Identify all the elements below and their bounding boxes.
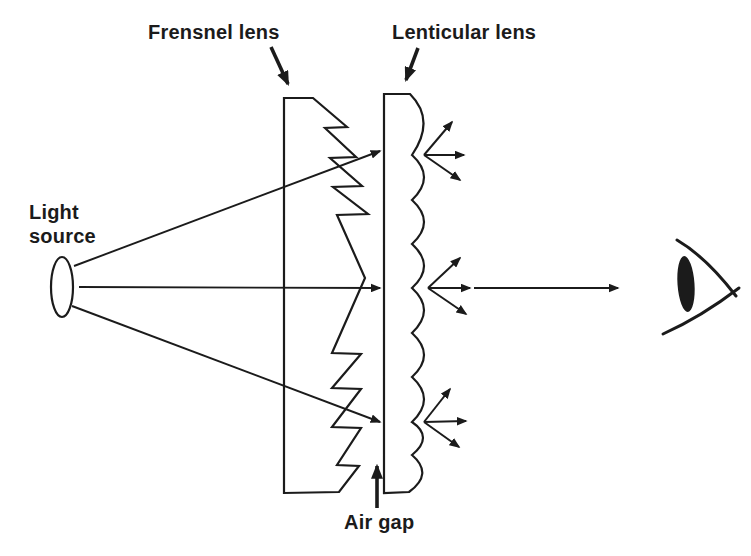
middle-ray bbox=[79, 287, 380, 288]
light-source-label-line1: Light bbox=[29, 201, 79, 223]
lenticular-lens-scalloped-icon bbox=[384, 94, 424, 493]
lenticular-label-arrow bbox=[406, 48, 418, 80]
lenticular-lens-label: Lenticular lens bbox=[392, 21, 536, 43]
lower-eyelid bbox=[663, 288, 739, 334]
pupil bbox=[676, 255, 697, 312]
diagram-canvas: Frensnel lens Lenticular lens Light sour… bbox=[0, 0, 751, 556]
optical-diagram: Frensnel lens Lenticular lens Light sour… bbox=[0, 0, 751, 556]
fresnel-label-arrow bbox=[271, 47, 288, 84]
bottom-divergence-fan bbox=[424, 389, 466, 447]
air-gap-label: Air gap bbox=[344, 511, 414, 533]
fresnel-lens-sawtooth-icon bbox=[284, 98, 368, 493]
light-source-ellipse-icon bbox=[51, 257, 73, 317]
middle-divergence-fan bbox=[428, 258, 618, 314]
light-source-label-line2: source bbox=[29, 225, 96, 247]
eye-icon bbox=[663, 240, 739, 334]
fresnel-lens-label: Frensnel lens bbox=[148, 21, 280, 43]
top-divergence-fan bbox=[424, 122, 464, 180]
